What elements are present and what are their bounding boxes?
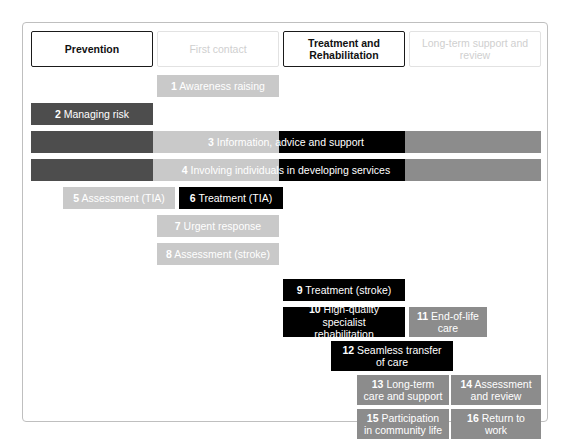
pathway-item-text: 6 Treatment (TIA) <box>190 192 272 205</box>
pathway-item-11[interactable]: 11 End-of-life care <box>409 307 487 337</box>
pathway-item-text: 12 Seamless transfer of care <box>342 344 441 369</box>
pathway-item-text: 15 Participation in community life <box>364 412 442 437</box>
pathway-item-10[interactable]: 10 High-quality specialist rehabilitatio… <box>283 307 405 337</box>
pathway-item-3[interactable]: 3 Information, advice and support <box>31 131 541 153</box>
pathway-item-1[interactable]: 1 Awareness raising <box>157 75 279 97</box>
pathway-item-text: 9 Treatment (stroke) <box>297 284 392 297</box>
pathway-item-13[interactable]: 13 Long-term care and support <box>357 375 449 405</box>
column-header-label: Prevention <box>65 43 119 56</box>
pathway-item-number: 6 <box>190 192 196 204</box>
pathway-item-9[interactable]: 9 Treatment (stroke) <box>283 279 405 301</box>
pathway-item-12[interactable]: 12 Seamless transfer of care <box>331 341 453 371</box>
pathway-item-3-segment-treatment <box>279 131 405 153</box>
pathway-item-label: Treatment (TIA) <box>198 192 272 204</box>
pathway-item-3-segment-long-term <box>405 131 541 153</box>
pathway-item-label: Managing risk <box>64 108 129 120</box>
pathway-item-4-segment-first-contact <box>153 159 279 181</box>
column-header-first-contact[interactable]: First contact <box>157 31 279 67</box>
pathway-item-text: 1 Awareness raising <box>171 80 265 93</box>
diagram-canvas: Prevention First contact Treatment and R… <box>0 0 571 446</box>
pathway-item-text: 14 Assessment and review <box>460 378 531 403</box>
pathway-item-number: 15 <box>367 412 379 424</box>
pathway-item-text: 2 Managing risk <box>55 108 129 121</box>
pathway-item-text: 7 Urgent response <box>175 220 261 233</box>
pathway-item-4-segment-treatment <box>279 159 405 181</box>
pathway-item-label: End-of-life care <box>431 310 479 335</box>
pathway-item-4-segment-prevention <box>31 159 153 181</box>
column-header-row: Prevention First contact Treatment and R… <box>23 23 547 67</box>
pathway-item-text: 5 Assessment (TIA) <box>73 192 165 205</box>
pathway-item-text: 11 End-of-life care <box>417 310 479 335</box>
pathway-item-4-segment-long-term <box>405 159 541 181</box>
pathway-item-number: 7 <box>175 220 181 232</box>
pathway-item-number: 10 <box>309 307 321 315</box>
pathway-item-text: 16 Return to work <box>467 412 525 437</box>
pathway-item-label: Assessment and review <box>471 378 532 403</box>
pathway-item-3-segment-prevention <box>31 131 153 153</box>
column-header-prevention[interactable]: Prevention <box>31 31 153 67</box>
pathway-item-label: High-quality specialist rehabilitation <box>314 307 379 337</box>
pathway-item-text: 10 High-quality specialist rehabilitatio… <box>286 307 402 337</box>
pathway-item-text: 13 Long-term care and support <box>364 378 443 403</box>
pathway-item-6[interactable]: 6 Treatment (TIA) <box>179 187 283 209</box>
pathway-item-text: 8 Assessment (stroke) <box>166 248 270 261</box>
pathway-item-label: Awareness raising <box>179 80 265 92</box>
pathway-item-label: Return to work <box>482 412 525 437</box>
pathway-item-14[interactable]: 14 Assessment and review <box>451 375 541 405</box>
pathway-item-5[interactable]: 5 Assessment (TIA) <box>63 187 175 209</box>
pathway-item-label: Assessment (stroke) <box>174 248 270 260</box>
pathway-item-2[interactable]: 2 Managing risk <box>31 103 153 125</box>
pathway-item-number: 8 <box>166 248 172 260</box>
pathway-item-number: 11 <box>417 310 428 322</box>
column-header-label: First contact <box>189 43 246 56</box>
pathway-item-number: 2 <box>55 108 61 120</box>
pathway-item-7[interactable]: 7 Urgent response <box>157 215 279 237</box>
pathway-item-15[interactable]: 15 Participation in community life <box>357 409 449 439</box>
pathway-item-number: 12 <box>342 344 354 356</box>
pathway-item-number: 13 <box>372 378 384 390</box>
column-header-label: Long-term support and review <box>414 37 536 62</box>
pathway-item-number: 1 <box>171 80 177 92</box>
pathway-item-label: Urgent response <box>184 220 262 232</box>
pathway-item-number: 5 <box>73 192 79 204</box>
pathway-frame: Prevention First contact Treatment and R… <box>22 22 548 422</box>
pathway-item-label: Assessment (TIA) <box>81 192 164 204</box>
pathway-item-8[interactable]: 8 Assessment (stroke) <box>157 243 279 265</box>
pathway-item-label: Treatment (stroke) <box>305 284 391 296</box>
pathway-item-number: 9 <box>297 284 303 296</box>
pathway-item-4[interactable]: 4 Involving individuals in developing se… <box>31 159 541 181</box>
column-header-long-term-support-and-review[interactable]: Long-term support and review <box>409 31 541 67</box>
column-header-label: Treatment and Rehabilitation <box>288 37 400 62</box>
pathway-item-3-segment-first-contact <box>153 131 279 153</box>
column-header-treatment-and-rehabilitation[interactable]: Treatment and Rehabilitation <box>283 31 405 67</box>
pathway-item-number: 16 <box>467 412 479 424</box>
pathway-item-16[interactable]: 16 Return to work <box>451 409 541 439</box>
pathway-item-label: Seamless transfer of care <box>357 344 442 369</box>
pathway-item-number: 14 <box>460 378 472 390</box>
